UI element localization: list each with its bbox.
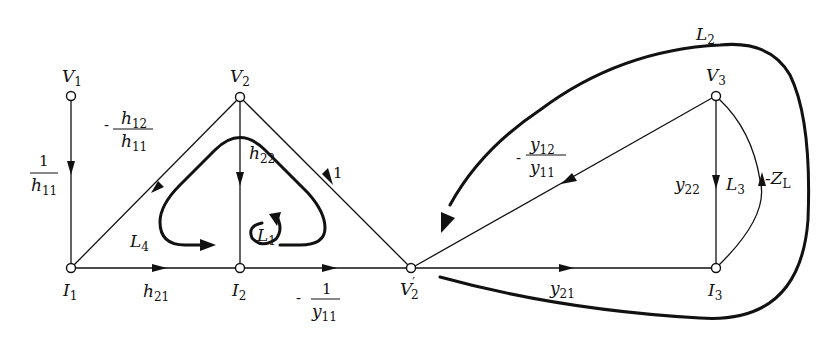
loop-label-l4: L4 [129, 231, 149, 254]
gain-h11-den: h11 [121, 131, 147, 154]
loop-label-l1: L1 [256, 225, 276, 248]
gain-minus-sign: - [296, 289, 301, 307]
loop-labels: L4 L1 L2 L3 [129, 24, 745, 254]
label-i1: I1 [62, 280, 77, 303]
signal-flow-graph: V1 V2 V3 I1 I2 V′2 I3 1 h11 - h12 h11 h2… [0, 0, 831, 340]
label-v1: V1 [62, 66, 82, 89]
gain-minus-sign: - [104, 116, 109, 134]
loop-arrow-icon [200, 239, 216, 251]
gain-minus-zl: -ZL [765, 168, 791, 191]
gain-h21: h21 [143, 281, 169, 304]
arrow-diag-icon [322, 168, 333, 185]
label-v2: V2 [230, 66, 250, 89]
gain-1-over-h11-num: 1 [39, 152, 49, 170]
gain-y11-den: y11 [529, 157, 555, 180]
gain-y12-num: y12 [529, 134, 555, 157]
gain-y22: y22 [674, 174, 700, 197]
gain-h12-num: h12 [121, 108, 147, 131]
gain-minus-sign: - [516, 149, 521, 167]
node-v2 [236, 93, 245, 102]
node-i2 [236, 264, 245, 273]
loop-label-l3: L3 [725, 174, 745, 197]
gain-y11-den: y11 [311, 301, 337, 324]
nodes [67, 92, 721, 273]
arrow-diag-icon [151, 181, 164, 193]
arrow-down-icon [712, 175, 720, 189]
node-v3 [712, 92, 721, 101]
label-v2-prime: V′2 [400, 276, 419, 302]
node-i3 [712, 264, 721, 273]
gain-one: 1 [333, 164, 343, 182]
node-v1 [67, 92, 76, 101]
loop-label-l2: L2 [695, 24, 715, 47]
arrow-down-icon [67, 161, 75, 175]
branch-v2-i1 [74, 100, 237, 265]
gain-y21: y21 [549, 278, 575, 301]
node-i1 [67, 264, 76, 273]
arrow-right-icon [152, 264, 167, 272]
loops [160, 44, 809, 318]
arrow-right-icon [322, 264, 337, 272]
gain-1-over-y11-num: 1 [322, 280, 332, 298]
loop-l2-path [440, 44, 809, 318]
arrow-down-icon [236, 172, 244, 186]
label-i2: I2 [231, 280, 246, 303]
label-i3: I3 [707, 280, 722, 303]
gain-1-over-h11-den: h11 [31, 175, 57, 198]
arrow-diag-icon [561, 173, 577, 184]
arrow-right-icon [559, 264, 574, 272]
loop-arrow-icon [441, 212, 455, 233]
node-v2-prime [407, 264, 416, 273]
label-v3: V3 [706, 65, 726, 88]
branches [67, 98, 766, 272]
